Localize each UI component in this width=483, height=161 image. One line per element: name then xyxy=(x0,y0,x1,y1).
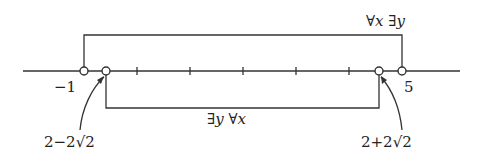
arrow-upper-root xyxy=(381,77,402,130)
bottom-bracket xyxy=(106,75,379,108)
top-bracket xyxy=(84,35,402,67)
label-upper-root: 2+2√2 xyxy=(361,135,412,150)
arrow-lower-root xyxy=(80,77,104,130)
label-top-quantifiers: ∀x ∃y xyxy=(366,14,405,29)
open-point-upper-root xyxy=(375,67,383,75)
label-bottom-quantifiers: ∃y ∀x xyxy=(207,112,246,127)
label-minus-one: −1 xyxy=(54,80,76,95)
open-point-five xyxy=(398,67,406,75)
open-point-minus-one xyxy=(80,67,88,75)
label-five: 5 xyxy=(404,80,414,95)
label-lower-root: 2−2√2 xyxy=(44,135,95,150)
open-point-lower-root xyxy=(102,67,110,75)
